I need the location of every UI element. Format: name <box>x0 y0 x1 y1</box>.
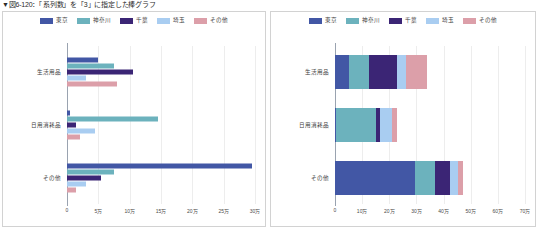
bar-segment-chiba[interactable] <box>369 55 398 89</box>
category-label: その他 <box>311 174 329 182</box>
bar-chiba[interactable] <box>67 70 133 75</box>
plot-area-clustered: 生活用品日用消耗品その他 05万10万15万20万25万30万 <box>3 42 265 226</box>
bar-kanagawa[interactable] <box>67 169 114 174</box>
legend-swatch-sonota-icon <box>194 18 207 24</box>
x-axis-tick-label: 10万 <box>124 207 135 214</box>
x-axis-tick-label: 50万 <box>465 207 476 214</box>
bar-group <box>67 111 255 140</box>
bar-segment-tokyo[interactable] <box>335 161 415 195</box>
bar-segment-sonota[interactable] <box>406 55 428 89</box>
legend-swatch-chiba-icon <box>120 18 133 24</box>
bar-sonota[interactable] <box>67 82 117 87</box>
legend-label: 千葉 <box>405 17 417 24</box>
figure-caption: ▼図6-120：「系列数」を「3」に指定した棒グラフ <box>2 0 536 10</box>
bar-row: 生活用品 <box>67 46 255 99</box>
legend-item-kanagawa[interactable]: 神奈川 <box>346 17 380 24</box>
x-axis-tick-label: 70万 <box>520 207 531 214</box>
bar-group <box>67 163 255 192</box>
bar-segment-sonota[interactable] <box>392 108 397 142</box>
legend-label: 神奈川 <box>93 17 111 24</box>
bar-saitama[interactable] <box>67 181 86 186</box>
bar-segment-chiba[interactable] <box>435 161 450 195</box>
legend-item-chiba[interactable]: 千葉 <box>389 17 417 24</box>
legend-item-sonota[interactable]: その他 <box>194 17 228 24</box>
bar-rows-clustered: 生活用品日用消耗品その他 <box>67 46 255 204</box>
legend-label: 東京 <box>325 17 337 24</box>
legend-label: その他 <box>210 17 228 24</box>
legend-item-tokyo[interactable]: 東京 <box>40 17 68 24</box>
legend-stacked: 東京神奈川千葉埼玉その他 <box>271 17 535 24</box>
legend-item-sonota[interactable]: その他 <box>463 17 497 24</box>
bar-kanagawa[interactable] <box>67 117 158 122</box>
x-axis-tick-label: 10万 <box>357 207 368 214</box>
bar-segment-saitama[interactable] <box>380 108 392 142</box>
x-axis-tick-label: 20万 <box>384 207 395 214</box>
x-axis-tick-label: 25万 <box>218 207 229 214</box>
plot-area-stacked: 生活用品日用消耗品その他 010万20万30万40万50万60万70万 <box>271 42 535 226</box>
legend-swatch-chiba-icon <box>389 18 402 24</box>
bar-segment-kanagawa[interactable] <box>336 108 375 142</box>
bar-segment-tokyo[interactable] <box>335 55 349 89</box>
bar-tokyo[interactable] <box>67 111 70 116</box>
x-axis-ticks-clustered: 05万10万15万20万25万30万 <box>67 204 255 222</box>
bar-saitama[interactable] <box>67 129 95 134</box>
x-axis-tick-label: 30万 <box>411 207 422 214</box>
category-label: その他 <box>43 174 61 182</box>
legend-label: 東京 <box>56 17 68 24</box>
x-axis-tick-label: 40万 <box>438 207 449 214</box>
legend-item-saitama[interactable]: 埼玉 <box>426 17 454 24</box>
bar-segment-saitama[interactable] <box>450 161 458 195</box>
bar-sonota[interactable] <box>67 187 76 192</box>
legend-item-tokyo[interactable]: 東京 <box>309 17 337 24</box>
legend-clustered: 東京神奈川千葉埼玉その他 <box>3 17 265 24</box>
legend-label: 埼玉 <box>173 17 185 24</box>
bar-row: その他 <box>335 151 525 204</box>
legend-swatch-tokyo-icon <box>309 18 322 24</box>
category-label: 日用消耗品 <box>299 121 329 129</box>
legend-swatch-kanagawa-icon <box>346 18 359 24</box>
legend-item-chiba[interactable]: 千葉 <box>120 17 148 24</box>
legend-label: 埼玉 <box>442 17 454 24</box>
bar-segment-saitama[interactable] <box>397 55 405 89</box>
legend-item-kanagawa[interactable]: 神奈川 <box>77 17 111 24</box>
legend-swatch-saitama-icon <box>157 18 170 24</box>
bar-segment-kanagawa[interactable] <box>415 161 435 195</box>
bar-saitama[interactable] <box>67 76 86 81</box>
bar-tokyo[interactable] <box>67 163 252 168</box>
bar-segment-sonota[interactable] <box>458 161 462 195</box>
bar-row: 日用消耗品 <box>335 99 525 152</box>
x-axis-ticks-stacked: 010万20万30万40万50万60万70万 <box>335 204 525 222</box>
chart-panel-stacked: 東京神奈川千葉埼玉その他 生活用品日用消耗品その他 010万20万30万40万5… <box>270 11 536 227</box>
x-axis-tick-label: 0 <box>334 207 337 213</box>
bar-row: 日用消耗品 <box>67 99 255 152</box>
bar-chiba[interactable] <box>67 175 101 180</box>
stacked-bar <box>335 108 525 142</box>
stacked-bar <box>335 55 525 89</box>
legend-swatch-tokyo-icon <box>40 18 53 24</box>
bar-chiba[interactable] <box>67 123 76 128</box>
legend-label: 神奈川 <box>362 17 380 24</box>
figure-container: ▼図6-120：「系列数」を「3」に指定した棒グラフ 東京神奈川千葉埼玉その他 … <box>0 0 538 229</box>
category-label: 日用消耗品 <box>31 121 61 129</box>
stacked-bar <box>335 161 525 195</box>
bar-rows-stacked: 生活用品日用消耗品その他 <box>335 46 525 204</box>
bar-sonota[interactable] <box>67 135 80 140</box>
bar-segment-kanagawa[interactable] <box>349 55 369 89</box>
x-axis-tick-label: 30万 <box>250 207 261 214</box>
legend-label: その他 <box>479 17 497 24</box>
legend-label: 千葉 <box>136 17 148 24</box>
bar-row: 生活用品 <box>335 46 525 99</box>
x-axis-tick-label: 20万 <box>187 207 198 214</box>
x-axis-tick-label: 5万 <box>94 207 102 214</box>
category-label: 生活用品 <box>305 68 329 76</box>
gridline <box>525 46 526 204</box>
bar-group <box>67 58 255 87</box>
bar-kanagawa[interactable] <box>67 64 114 69</box>
x-axis-tick-label: 60万 <box>493 207 504 214</box>
legend-item-saitama[interactable]: 埼玉 <box>157 17 185 24</box>
legend-swatch-kanagawa-icon <box>77 18 90 24</box>
bar-row: その他 <box>67 151 255 204</box>
category-label: 生活用品 <box>37 68 61 76</box>
bar-tokyo[interactable] <box>67 58 98 63</box>
x-axis-tick-label: 15万 <box>156 207 167 214</box>
